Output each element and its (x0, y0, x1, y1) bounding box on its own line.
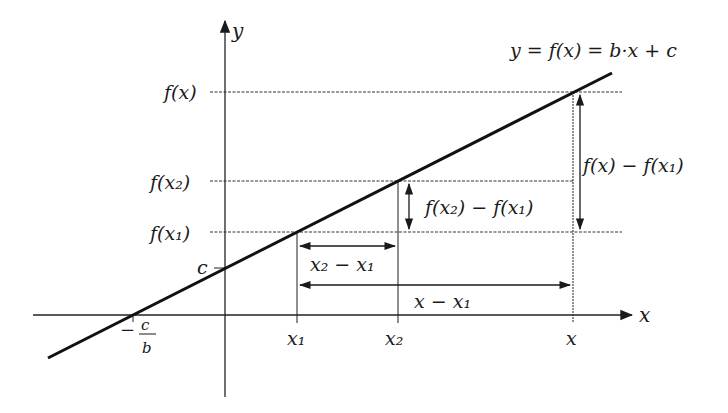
root-numerator: c (141, 316, 150, 334)
label-df21: f(x₂) − f(x₁) (423, 196, 533, 218)
label-fx: f(x) (162, 81, 197, 103)
label-df1: f(x) − f(x₁) (581, 154, 684, 176)
label-fx1: f(x₁) (148, 222, 190, 244)
label-x1: x₁ (287, 327, 305, 349)
root-minus: − (120, 319, 135, 340)
label-x2: x₂ (385, 327, 403, 349)
label-root: − c b (120, 316, 156, 357)
root-denominator: b (142, 339, 152, 357)
label-dx1: x − x₁ (414, 290, 471, 312)
dashed-guides (210, 92, 622, 232)
equation-label: y = f(x) = b·x + c (509, 39, 677, 61)
label-dx21: x₂ − x₁ (310, 253, 375, 275)
x-axis-label: x (639, 303, 650, 327)
label-x: x (566, 327, 577, 349)
label-fx2: f(x₂) (148, 171, 190, 193)
y-axis-label: y (231, 19, 244, 43)
label-c: c (197, 256, 208, 278)
linear-function-diagram: y x y = f(x) = b·x + c f(x) f(x₂) f(x₁) … (0, 0, 728, 413)
